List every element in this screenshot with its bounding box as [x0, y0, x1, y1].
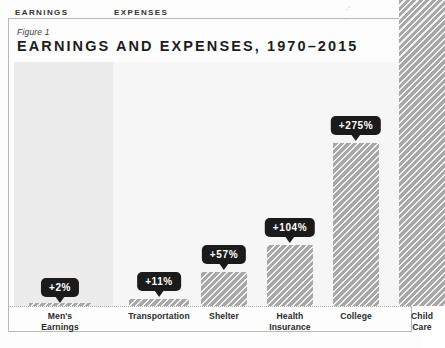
- bar-transportation: [129, 299, 189, 306]
- x-label-child-care: Child Care: [411, 311, 433, 333]
- value-badge-shelter: +57%: [202, 245, 246, 264]
- bar-shelter: [201, 272, 247, 306]
- value-badge-mens-earnings: +2%: [41, 278, 79, 297]
- bar-child-care: [399, 0, 445, 306]
- value-badge-college: +275%: [331, 116, 381, 135]
- value-badge-transportation: +11%: [137, 272, 181, 291]
- x-label-college: College: [340, 311, 372, 322]
- x-label-mens-earnings: Men'sEarnings: [41, 311, 79, 333]
- bars-container: +2%Men'sEarnings+11%Transportation+57%Sh…: [9, 0, 411, 306]
- value-badge-health-insurance: +104%: [265, 218, 315, 237]
- axis-baseline: [9, 306, 411, 307]
- x-label-transportation: Transportation: [128, 311, 190, 322]
- x-label-health-insurance: HealthInsurance: [269, 311, 311, 333]
- x-label-shelter: Shelter: [209, 311, 239, 322]
- bar-health-insurance: [267, 245, 313, 306]
- bar-college: [333, 143, 379, 306]
